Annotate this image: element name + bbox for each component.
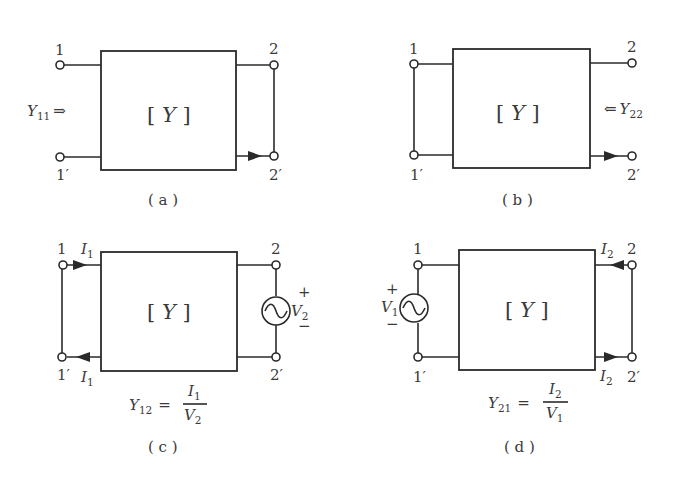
terminal-1-prime-label: 1′ [410,166,424,184]
terminal-2-label: 2 [627,240,637,258]
panel-c: 1 1′ 2 2′ I1 I1 + V2 − [ Y ] Y12= I1 V2 … [57,240,311,456]
svg-text:V2: V2 [184,406,202,426]
formula-y12: Y12= I1 V2 [129,382,207,426]
terminal-1-prime [410,151,418,159]
svg-text:I1: I1 [187,382,201,402]
source-plus-sign: + [298,283,311,301]
matrix-label: [ Y ] [505,298,549,322]
caption-c: ( c ) [148,438,178,456]
double-arrow-left-icon: ⇐ [604,100,617,118]
double-arrow-right-icon: ⇒ [53,102,66,120]
terminal-1-label: 1 [55,41,65,59]
current-arrow-right-icon [604,352,618,362]
terminal-1 [414,261,422,269]
terminal-1-prime [56,153,64,161]
terminal-1 [56,61,64,69]
terminal-1-label: 1 [409,40,419,58]
terminal-2-prime-label: 2′ [270,366,284,384]
current-arrow-right-icon [73,260,87,270]
panel-a: 1 1′ 2 2′ Y11⇒ [ Y ] ( a ) [27,40,283,209]
formula-y21: Y21= I2 V1 [488,380,568,424]
terminal-2-label: 2 [627,38,637,56]
terminal-2 [628,59,636,67]
svg-text:I2: I2 [548,380,562,400]
source-minus-sign: − [298,317,311,335]
terminal-2-prime [270,152,278,160]
current-i2-top-label: I2 [600,240,614,260]
current-arrow-icon [604,151,618,161]
caption-d: ( d ) [504,438,535,456]
matrix-label: [ Y ] [496,101,540,125]
terminal-2-label: 2 [269,40,279,58]
terminal-2 [270,61,278,69]
terminal-1-prime [58,353,66,361]
terminal-2-prime [628,353,636,361]
panel-d: 1 1′ 2 2′ I2 I2 + V1 − [ Y ] Y21= I2 V1 … [381,240,641,456]
current-arrow-icon [248,151,262,161]
terminal-2 [272,261,280,269]
svg-text:Y21=: Y21= [488,394,530,414]
svg-text:Y12=: Y12= [129,396,171,416]
terminal-1-prime [414,353,422,361]
caption-b: ( b ) [502,191,533,209]
source-plus-sign: + [386,280,399,298]
current-i2-bottom-label: I2 [599,367,613,387]
caption-a: ( a ) [148,191,178,209]
terminal-1 [59,261,67,269]
admittance-y22-label: ⇐Y22 [604,100,643,120]
matrix-label: [ Y ] [147,300,191,324]
terminal-2-prime-label: 2′ [627,166,641,184]
terminal-2-prime [628,152,636,160]
terminal-2 [628,261,636,269]
terminal-1-prime-label: 1′ [57,366,71,384]
matrix-label: [ Y ] [147,103,191,127]
terminal-2-label: 2 [271,240,281,258]
current-arrow-left-icon [610,260,624,270]
terminal-2-prime-label: 2′ [269,166,283,184]
admittance-y11-label: Y11⇒ [27,102,66,122]
current-i1-top-label: I1 [80,240,94,260]
source-minus-sign: − [386,315,399,333]
two-port-y-parameter-figure: 1 1′ 2 2′ Y11⇒ [ Y ] ( a ) 1 1′ 2 2′ ⇐Y2… [0,0,687,478]
panel-b: 1 1′ 2 2′ ⇐Y22 [ Y ] ( b ) [409,38,643,209]
terminal-1-label: 1 [57,240,67,258]
svg-text:V1: V1 [546,404,564,424]
terminal-2-prime [272,353,280,361]
terminal-1 [410,60,418,68]
current-i1-bottom-label: I1 [80,368,94,388]
terminal-1-prime-label: 1′ [413,368,427,386]
terminal-1-prime-label: 1′ [56,166,70,184]
terminal-2-prime-label: 2′ [627,368,641,386]
terminal-1-label: 1 [413,240,423,258]
current-arrow-left-icon [76,352,90,362]
